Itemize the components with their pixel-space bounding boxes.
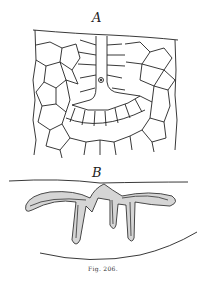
panel-b-gland-drawing [0, 0, 206, 281]
figure-caption: Fig. 206. [0, 265, 206, 272]
